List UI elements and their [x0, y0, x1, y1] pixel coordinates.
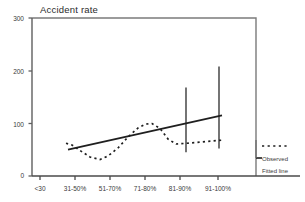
series-fitted-line	[68, 115, 222, 149]
series-observed	[66, 124, 224, 160]
accident-rate-chart: Accident rate 300 200 100 0 <30 31-50% 5…	[0, 0, 305, 202]
chart-canvas	[0, 0, 305, 202]
legend-sample-fitted-line	[256, 140, 262, 158]
plot-frame	[32, 18, 256, 176]
chart-title: Accident rate	[38, 4, 100, 15]
x-axis	[32, 176, 300, 180]
y-axis	[29, 18, 33, 176]
